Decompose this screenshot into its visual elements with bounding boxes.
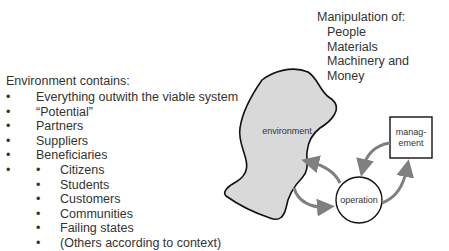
- environment-label: environment: [252, 126, 322, 136]
- environment-blob: [225, 69, 337, 219]
- operation-label: operation: [336, 195, 382, 205]
- arrow-environment-to-operation: [294, 188, 326, 207]
- arrow-management-to-operation: [363, 143, 390, 168]
- management-label: manag- ement: [390, 127, 432, 149]
- management-label-line2: ement: [390, 138, 432, 149]
- arrow-operation-to-environment: [310, 162, 340, 183]
- arrow-operation-to-management: [382, 168, 407, 203]
- management-label-line1: manag-: [390, 127, 432, 138]
